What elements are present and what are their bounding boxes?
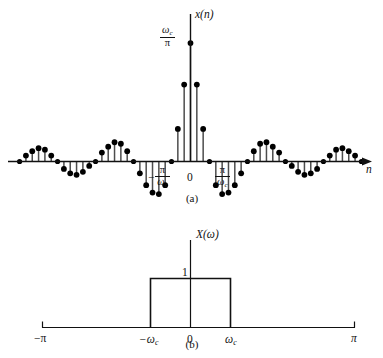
left-tick-omega-subscript: c: [165, 180, 168, 188]
panel-b-tick-label-minus-pi: −π: [34, 332, 46, 344]
panel-b-tick-label-minus-omega-c: −ωc: [139, 333, 158, 347]
right-tick-pi-symbol: π: [215, 165, 230, 176]
panel-b-rect-plot: [0, 228, 383, 348]
stem-marker: [80, 169, 86, 175]
stem-marker: [29, 148, 35, 154]
panel-b-tick-label-omega-c: ωc: [225, 333, 237, 347]
panel-a-left-zero-crossing-label: − π ωc: [148, 165, 170, 189]
panel-a-y-axis-label: x(n): [195, 8, 214, 20]
stem-marker: [302, 172, 308, 178]
stem-marker: [276, 150, 282, 156]
stem-marker: [238, 170, 244, 176]
stem-marker: [156, 191, 162, 197]
panel-b-y-axis-label: X(ω): [196, 228, 219, 240]
peak-omega-subscript: c: [169, 29, 172, 37]
stem-marker: [175, 126, 181, 132]
stem-marker: [232, 182, 238, 188]
stem-marker: [226, 190, 232, 196]
stem-marker: [42, 147, 48, 153]
panel-b-omega-symbol: ω: [225, 333, 233, 345]
stem-marker: [61, 166, 67, 172]
stem-marker: [327, 153, 333, 159]
panel-a-right-zero-crossing-label: π ωc: [215, 165, 230, 189]
stem-marker: [112, 139, 118, 145]
figure-container: x(n) n ωc π 0 − π ωc π ωc (a) X(ω): [0, 0, 383, 358]
stem-marker: [346, 148, 352, 154]
panel-a-peak-value-label: ωc π: [160, 25, 175, 49]
stem-marker: [257, 141, 263, 147]
left-tick-omega-symbol: ω: [157, 176, 164, 187]
panel-b-amplitude-label: 1: [182, 266, 188, 278]
panel-b-minus-omega-symbol: −ω: [139, 333, 155, 345]
stem-marker: [289, 163, 295, 169]
stem-marker: [23, 153, 29, 159]
stem-marker: [86, 163, 92, 169]
panel-b-minus-omega-subscript: c: [155, 338, 158, 347]
stem-marker: [352, 153, 358, 159]
stem-marker: [251, 148, 257, 154]
left-tick-minus-sign: −: [148, 171, 155, 183]
stem-marker: [333, 147, 339, 153]
panel-b-caption: (b): [172, 338, 212, 350]
stem-marker: [118, 141, 124, 147]
stem-marker: [194, 82, 200, 88]
panel-a-caption: (a): [172, 192, 212, 204]
stem-marker: [67, 170, 73, 176]
stem-marker: [340, 145, 346, 151]
stem-marker: [74, 172, 80, 178]
stem-marker: [99, 150, 105, 156]
stem-marker: [270, 144, 276, 150]
stem-marker: [200, 126, 206, 132]
stem-marker: [314, 166, 320, 172]
stem-marker: [264, 139, 270, 145]
panel-a-origin-label: 0: [187, 171, 193, 183]
panel-b-omega-subscript: c: [233, 338, 236, 347]
stem-marker: [295, 169, 301, 175]
stem-marker: [36, 145, 42, 151]
right-tick-omega-subscript: c: [224, 180, 227, 188]
stem-marker: [137, 170, 143, 176]
left-tick-pi-symbol: π: [155, 165, 170, 176]
peak-pi-symbol: π: [160, 37, 175, 49]
stem-marker: [124, 148, 130, 154]
stem-marker: [308, 170, 314, 176]
panel-a-x-axis-label: n: [366, 163, 372, 175]
stem-marker: [181, 82, 187, 88]
stem-marker: [48, 153, 54, 159]
stem-marker: [150, 190, 156, 196]
stem-marker: [219, 191, 225, 197]
stem-marker: [105, 144, 111, 150]
panel-b-tick-label-pi: π: [351, 332, 357, 344]
